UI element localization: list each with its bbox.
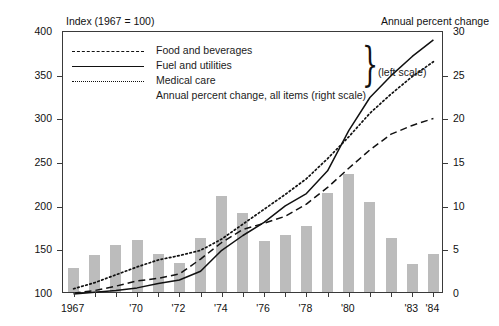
x-tick-label: '84 <box>412 302 452 314</box>
x-tick <box>116 292 117 297</box>
solid-line-key <box>72 66 144 67</box>
y-tick-label: 150 <box>18 243 52 255</box>
legend-label: Medical care <box>156 74 216 86</box>
x-tick <box>391 292 392 297</box>
y-tick-label: 300 <box>18 112 52 124</box>
dotted-line-key <box>72 81 144 82</box>
legend-item-fuel: Fuel and utilities <box>72 59 402 74</box>
series-line <box>74 118 434 293</box>
y-tick-right <box>442 163 448 164</box>
y-tick <box>57 119 63 120</box>
x-tick <box>264 292 265 297</box>
x-tick-label: '74 <box>201 302 241 314</box>
y-tick-label: 250 <box>18 156 52 168</box>
x-tick <box>158 292 159 297</box>
x-tick-label: '78 <box>285 302 325 314</box>
y-tick-label-right: 20 <box>453 112 487 124</box>
x-tick <box>306 292 307 297</box>
y-tick-label-right: 10 <box>453 200 487 212</box>
legend-label: Fuel and utilities <box>156 59 232 71</box>
y-tick-right <box>442 250 448 251</box>
legend-label-annual-percent-change: Annual percent change, all items (right … <box>156 89 366 101</box>
x-tick-label: 1967 <box>53 302 93 314</box>
y-tick-label: 200 <box>18 200 52 212</box>
x-tick <box>412 292 413 297</box>
y-tick-label: 400 <box>18 25 52 37</box>
x-tick-label: '70 <box>116 302 156 314</box>
x-tick <box>137 292 138 297</box>
legend-brace-label: (left scale) <box>378 66 426 78</box>
legend-label: Food and beverages <box>156 44 252 56</box>
x-tick <box>74 292 75 297</box>
left-axis-title: Index (1967 = 100) <box>66 16 154 27</box>
y-tick-label: 350 <box>18 69 52 81</box>
y-tick <box>57 250 63 251</box>
y-tick <box>57 163 63 164</box>
y-tick-label-right: 25 <box>453 69 487 81</box>
legend-item-food: Food and beverages <box>72 44 402 59</box>
y-tick-label: 100 <box>18 287 52 299</box>
x-tick <box>433 292 434 297</box>
x-tick <box>285 292 286 297</box>
x-tick <box>243 292 244 297</box>
x-tick-label: '80 <box>328 302 368 314</box>
x-tick <box>222 292 223 297</box>
y-tick-label-right: 0 <box>453 287 487 299</box>
y-tick-right <box>442 76 448 77</box>
brace-glyph: } <box>362 46 378 84</box>
y-tick-label-right: 30 <box>453 25 487 37</box>
x-tick <box>179 292 180 297</box>
dashed-line-key <box>72 51 144 52</box>
x-tick <box>349 292 350 297</box>
y-tick <box>57 207 63 208</box>
y-tick <box>57 76 63 77</box>
x-tick <box>328 292 329 297</box>
x-tick <box>201 292 202 297</box>
legend-item-medical: Medical care <box>72 74 402 89</box>
y-tick-label-right: 5 <box>453 243 487 255</box>
chart-legend: Food and beverages Fuel and utilities Me… <box>72 44 402 89</box>
chart-figure: Index (1967 = 100) Annual percent change… <box>0 0 499 326</box>
y-tick-label-right: 15 <box>453 156 487 168</box>
x-tick-label: '76 <box>243 302 283 314</box>
y-tick-right <box>442 207 448 208</box>
x-tick <box>95 292 96 297</box>
x-tick <box>370 292 371 297</box>
y-tick-right <box>442 119 448 120</box>
x-tick-label: '72 <box>158 302 198 314</box>
